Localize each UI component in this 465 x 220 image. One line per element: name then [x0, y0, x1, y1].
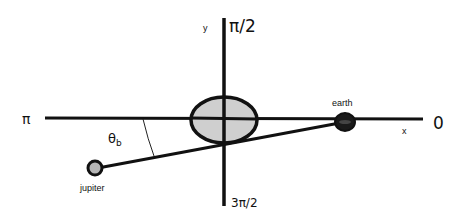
orbital-diagram: y x π/2 3π/2 π 0 earth jupiter θb: [0, 0, 465, 220]
earth-highlight: [339, 120, 351, 124]
angle-pi-half-label: π/2: [229, 16, 256, 36]
theta-subscript: b: [116, 138, 122, 148]
angle-arc: [143, 119, 154, 156]
x-axis-label: x: [402, 126, 407, 136]
angle-pi-label: π: [22, 111, 31, 127]
theta-symbol: θ: [108, 131, 116, 146]
theta-b-label: θb: [108, 131, 122, 148]
angle-3pi-half-label: 3π/2: [231, 196, 258, 210]
angle-0-label: 0: [433, 113, 444, 133]
jupiter-label: jupiter: [79, 183, 105, 193]
y-axis-label: y: [203, 23, 208, 33]
jupiter-planet: [88, 161, 102, 175]
earth-label: earth: [332, 98, 353, 108]
